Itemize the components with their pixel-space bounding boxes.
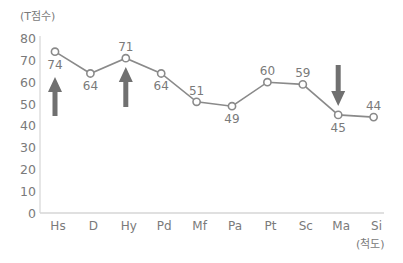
data-value-label: 64	[83, 79, 98, 93]
y-tick-label: 80	[20, 31, 36, 46]
y-tick-label: 0	[28, 206, 36, 221]
y-tick-label: 10	[20, 184, 36, 199]
data-point-marker	[228, 103, 235, 110]
x-tick-label: Ma	[332, 219, 350, 233]
y-tick-label: 50	[20, 97, 36, 112]
y-tick-label: 40	[20, 118, 36, 133]
data-value-label: 64	[154, 79, 169, 93]
x-tick-label: Mf	[192, 219, 207, 233]
arrow-up-icon	[48, 77, 62, 116]
y-tick-label: 20	[20, 162, 36, 177]
x-axis-title: (척도)	[356, 238, 385, 251]
x-tick-label: Hs	[50, 219, 65, 233]
x-tick-label: D	[89, 219, 98, 233]
data-value-label: 74	[47, 58, 62, 72]
x-tick-label: Pd	[157, 219, 172, 233]
x-tick-label: Sc	[299, 219, 313, 233]
mmpi-line-chart: (T점수) 01020304050607080 HsDHyPdMfPaPtScM…	[0, 0, 403, 263]
series-line	[55, 52, 374, 117]
data-point-marker	[335, 111, 342, 118]
x-tick-label: Pt	[264, 219, 276, 233]
data-point-marker	[370, 113, 377, 120]
y-tick-label: 30	[20, 140, 36, 155]
data-point-marker	[299, 81, 306, 88]
data-point-marker	[87, 70, 94, 77]
y-axis-title: (T점수)	[20, 10, 55, 23]
x-tick-label: Hy	[121, 219, 137, 233]
x-axis-ticks: HsDHyPdMfPaPtScMaSi	[50, 219, 382, 233]
data-value-label: 51	[189, 84, 204, 98]
data-point-marker	[122, 55, 129, 62]
arrow-up-icon	[119, 67, 133, 107]
data-points	[51, 48, 377, 121]
arrow-down-icon	[331, 65, 345, 106]
data-point-marker	[158, 70, 165, 77]
y-axis-ticks: 01020304050607080	[20, 31, 36, 220]
data-value-label: 45	[331, 121, 346, 135]
y-tick-label: 70	[20, 53, 36, 68]
data-value-label: 59	[295, 66, 310, 80]
x-tick-label: Pa	[228, 219, 242, 233]
data-value-label: 71	[118, 40, 133, 54]
data-labels: 74647164514960594544	[47, 40, 381, 135]
y-tick-label: 60	[20, 75, 36, 90]
data-value-label: 44	[366, 99, 381, 113]
data-value-label: 60	[260, 64, 275, 78]
x-tick-label: Si	[371, 219, 382, 233]
data-point-marker	[51, 48, 58, 55]
data-point-marker	[264, 79, 271, 86]
data-point-marker	[193, 98, 200, 105]
data-value-label: 49	[224, 112, 239, 126]
